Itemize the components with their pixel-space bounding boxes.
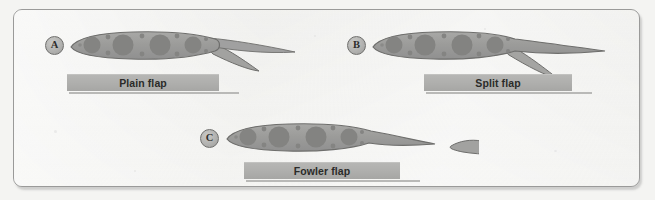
rivet (262, 143, 267, 148)
panel-marker-b: B (347, 36, 366, 55)
rivet (106, 35, 111, 40)
figure-frame: A (13, 9, 640, 187)
rivet (477, 34, 482, 39)
rivet (331, 126, 336, 131)
rivet (408, 51, 413, 56)
rivet (380, 43, 384, 47)
fowler-flap-element (450, 140, 479, 154)
lightening-hole (113, 35, 134, 56)
lightening-hole (306, 127, 327, 148)
rivet (204, 49, 208, 53)
panel-marker-c: C (200, 129, 219, 148)
wing-body-b (373, 32, 605, 59)
panel-caption-c: Fowler flap (244, 162, 400, 179)
rivet (204, 37, 208, 41)
rivet (140, 52, 145, 57)
flap-types-figure: A (0, 0, 655, 200)
rivet (78, 43, 82, 47)
rivet (296, 126, 301, 131)
lightening-hole (341, 129, 358, 146)
rivet (477, 52, 482, 57)
lightening-hole (240, 129, 257, 146)
panel-caption-b: Split flap (424, 74, 572, 91)
rivet (442, 52, 447, 57)
panel-marker-a: A (45, 36, 64, 55)
lightening-hole (84, 37, 101, 54)
rivet (175, 52, 180, 57)
rivet (175, 34, 180, 39)
lightening-hole (269, 127, 290, 148)
wing-body-a (71, 32, 220, 59)
panel-c: C (164, 104, 494, 186)
rivet (262, 127, 267, 132)
rivet (442, 34, 447, 39)
lightening-hole (487, 37, 504, 54)
lightening-hole (386, 37, 403, 54)
lightening-hole (415, 35, 436, 56)
rivet (234, 135, 238, 139)
panel-caption-a: Plain flap (67, 74, 219, 91)
rivet (360, 141, 364, 145)
lightening-hole (452, 35, 473, 56)
rivet (360, 130, 364, 134)
rivet (106, 51, 111, 56)
rivet (506, 49, 510, 53)
airfoil-diagram-fowler-flap (219, 116, 479, 166)
rivet (408, 35, 413, 40)
wing-body-c (227, 124, 435, 151)
rivet (140, 34, 145, 39)
lightening-hole (150, 35, 171, 56)
rivet (506, 37, 510, 41)
lightening-hole (185, 37, 202, 54)
rivet (296, 144, 301, 149)
rivet (331, 144, 336, 149)
